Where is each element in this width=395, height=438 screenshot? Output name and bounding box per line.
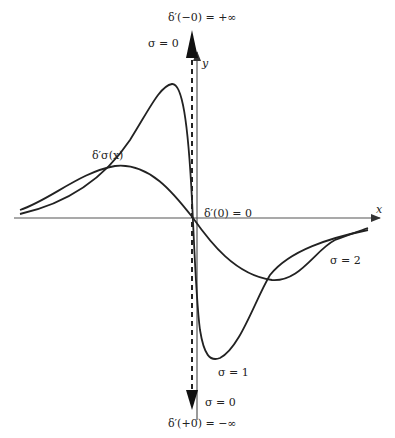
top-limit-label: δ′(−0) = +∞: [168, 12, 237, 23]
up-arrow-icon: [186, 30, 198, 58]
top-sigma0-label: σ = 0: [148, 38, 179, 49]
x-axis-label: x: [376, 204, 382, 215]
diagram-canvas: [0, 0, 395, 438]
curve-sigma2: [20, 166, 368, 280]
origin-value-label: δ′(0) = 0: [204, 208, 252, 219]
curve-name-label: δ′σ(x): [92, 150, 123, 161]
down-arrow-icon: [186, 390, 198, 410]
y-axis-label: y: [202, 58, 208, 69]
diagram: δ′(−0) = +∞ σ = 0 y x δ′σ(x) δ′(0) = 0 σ…: [0, 0, 395, 438]
bottom-sigma0-label: σ = 0: [205, 397, 236, 408]
sigma1-label: σ = 1: [218, 367, 249, 378]
sigma2-label: σ = 2: [330, 255, 361, 266]
bottom-limit-label: δ′(+0) = −∞: [168, 418, 237, 429]
curve-sigma1: [20, 84, 368, 359]
